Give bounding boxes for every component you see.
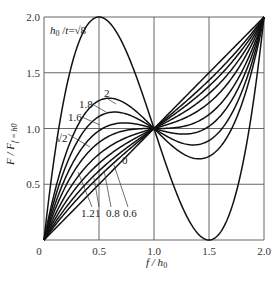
x-tick-label: 0.5 [92, 245, 106, 257]
label-2: 2 [104, 87, 110, 99]
y-tick-label: 0.5 [26, 178, 40, 190]
label-1: 1 [95, 207, 101, 219]
x-tick-label: 2.0 [257, 245, 271, 257]
x-tick-label: 1.5 [202, 245, 216, 257]
y-tick-label: 1.5 [26, 67, 40, 79]
y-tick-label: 2.0 [26, 11, 40, 23]
label-0: 0 [122, 154, 128, 166]
label-1-6: 1.6 [68, 111, 82, 123]
x-tick-label: 0 [36, 245, 42, 257]
label-sqrt2: √2 [56, 132, 68, 144]
x-axis-title: f / h0 [146, 256, 167, 270]
label-1-2: 1.2 [81, 207, 95, 219]
label-sqrt8: h0 /t=√8 [50, 24, 87, 38]
y-tick-label: 1.0 [26, 123, 40, 135]
chart-svg: 00.51.01.52.00.51.01.52.0 h0 /t=√8 2 1.8… [0, 0, 279, 285]
y-axis-title: F / Ff = h0 [4, 123, 19, 166]
label-1-8: 1.8 [79, 98, 93, 110]
label-0-8: 0.8 [106, 207, 120, 219]
label-0-6: 0.6 [123, 207, 137, 219]
